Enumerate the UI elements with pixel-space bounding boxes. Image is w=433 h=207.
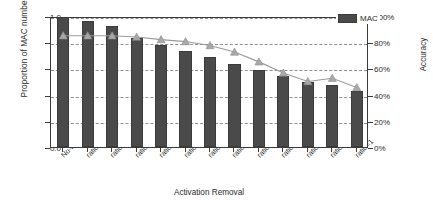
y-tick-label-right: 20% — [374, 117, 406, 126]
y-axis-label-left: Proportion of MAC number — [20, 0, 29, 118]
line-series-accuracy — [51, 18, 368, 148]
x-axis-label: Activation Removal — [50, 188, 368, 197]
y-axis-label-right: Accuracy — [419, 5, 428, 105]
data-point-marker — [353, 83, 361, 90]
y-tick-label-right: 80% — [374, 39, 406, 48]
data-point-marker — [255, 58, 263, 65]
y-tick-mark-right — [368, 69, 373, 70]
plot-area — [50, 17, 368, 148]
y-tick-label-right: 60% — [374, 65, 406, 74]
y-tick-mark-right — [368, 96, 373, 97]
y-tick-mark-right — [368, 43, 373, 44]
y-tick-mark-right — [368, 122, 373, 123]
legend-label-mac: MAC — [360, 14, 378, 23]
y-tick-label-right: 40% — [374, 91, 406, 100]
data-point-marker — [279, 69, 287, 76]
y-tick-label-right: 0% — [374, 144, 406, 153]
legend-swatch-mac — [338, 14, 357, 23]
chart-figure: Proportion of MAC number Accuracy Activa… — [0, 0, 433, 207]
legend: MAC — [336, 13, 380, 24]
data-point-marker — [328, 74, 336, 81]
y-tick-mark-left — [45, 148, 50, 149]
